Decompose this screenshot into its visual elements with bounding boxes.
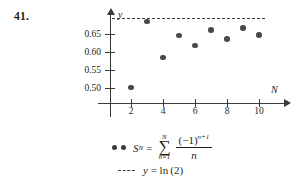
data-point: [208, 27, 214, 33]
data-point: [160, 55, 166, 61]
ln2-legend-label: y = ln (2): [143, 164, 183, 176]
ln2-reference-line: [112, 18, 265, 19]
x-axis-label: N: [271, 84, 278, 95]
data-point: [224, 36, 230, 42]
summation-operator: N ∑ n=1: [158, 134, 170, 160]
plot-area: y N 0.65 0.60 0.55 0.50 2 4 6 8 10: [0, 0, 291, 130]
y-tick-label: 0.50: [55, 83, 101, 93]
y-tick-label: 0.60: [55, 47, 101, 57]
formula-fraction: (−1)n+1 n: [176, 134, 213, 161]
legend-item-series: SN = N ∑ n=1 (−1)n+1 n: [112, 134, 212, 161]
y-tick-mark: [105, 70, 115, 71]
fraction-denominator: n: [188, 148, 200, 161]
series-formula: SN = N ∑ n=1 (−1)n+1 n: [133, 134, 212, 161]
data-point: [240, 25, 246, 31]
y-tick-label: 0.65: [55, 29, 101, 39]
y-tick-mark: [105, 34, 115, 35]
numerator-base: (−1): [179, 134, 198, 146]
formula-lhs-subscript: N: [139, 144, 144, 152]
x-tick-label: 2: [124, 106, 138, 116]
x-tick-label: 6: [188, 106, 202, 116]
data-point: [256, 32, 262, 38]
data-point: [176, 33, 182, 39]
fraction-numerator: (−1)n+1: [176, 134, 213, 147]
x-tick-label: 8: [220, 106, 234, 116]
legend-dot-icon: [121, 145, 126, 150]
x-tick-label: 10: [252, 106, 266, 116]
legend: SN = N ∑ n=1 (−1)n+1 n y = ln (2): [0, 128, 291, 191]
series-marker-icon: [112, 145, 126, 150]
y-tick-mark: [105, 52, 115, 53]
numerator-exponent: n+1: [198, 133, 210, 141]
x-axis-line: [98, 103, 285, 104]
data-point: [128, 85, 134, 91]
data-point: [144, 19, 150, 25]
y-tick-label: 0.55: [55, 65, 101, 75]
legend-item-ln2: y = ln (2): [118, 164, 183, 176]
legend-dot-icon: [112, 145, 117, 150]
data-point: [192, 43, 198, 49]
dashed-line-marker-icon: [118, 170, 135, 171]
y-axis-arrow-icon: [107, 8, 115, 15]
x-axis-arrow-icon: [284, 99, 291, 107]
y-tick-mark: [105, 88, 115, 89]
formula-equals: =: [146, 142, 152, 154]
figure-container: 41. y N 0.65 0.60 0.55 0.50 2 4 6 8 10: [0, 0, 291, 191]
summation-lower-limit: n=1: [159, 154, 171, 161]
y-axis-line: [110, 14, 111, 117]
x-tick-label: 4: [156, 106, 170, 116]
